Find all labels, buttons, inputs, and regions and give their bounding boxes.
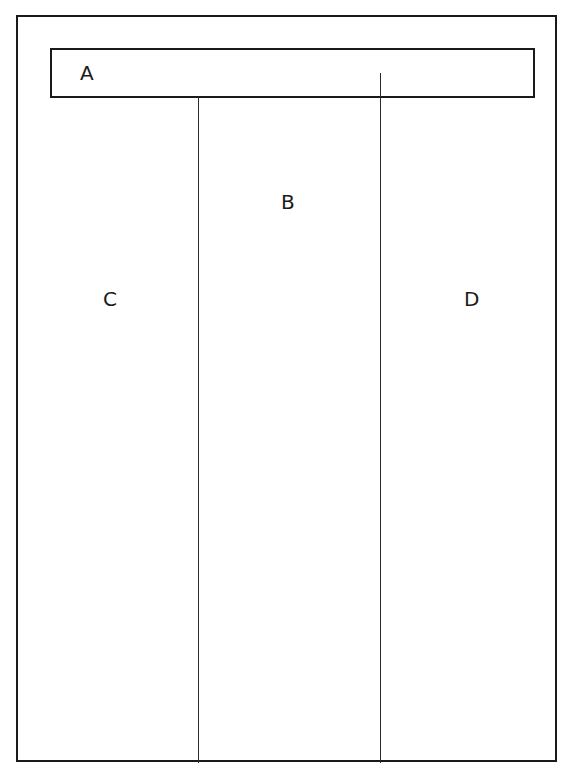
region-d-label: D xyxy=(464,289,479,309)
region-b-label: B xyxy=(281,192,295,212)
region-a-box xyxy=(50,48,535,98)
region-c-label: C xyxy=(103,289,117,309)
divider-left xyxy=(198,97,199,763)
region-a-label: A xyxy=(80,63,94,83)
page-frame xyxy=(16,15,557,762)
divider-right xyxy=(380,73,381,763)
